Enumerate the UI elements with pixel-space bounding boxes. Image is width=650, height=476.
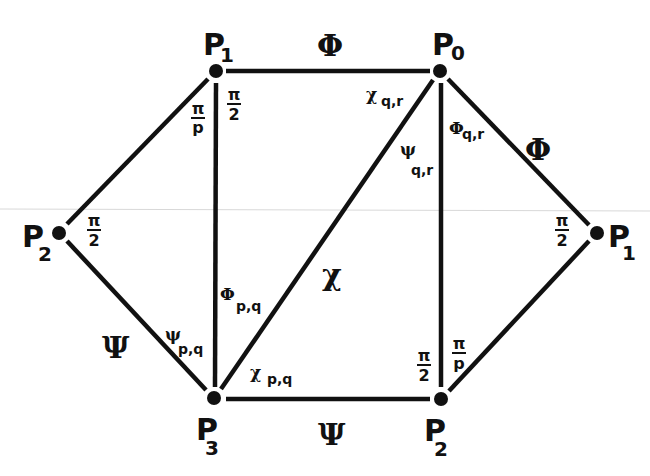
edge-label-left-psi: Ψ xyxy=(102,330,130,365)
edge-label-diagonal-chi: χ xyxy=(322,257,342,292)
edge-p0-p1right xyxy=(448,79,589,225)
vertex-dot xyxy=(52,226,66,240)
svg-text:p: p xyxy=(192,118,203,137)
angle-pi-over-2-at-p1: π 2 xyxy=(227,85,241,124)
svg-text:p: p xyxy=(453,354,464,373)
svg-text:π: π xyxy=(453,334,466,353)
node-subscript: 1 xyxy=(622,241,636,265)
node-p2-left: P 2 xyxy=(22,219,66,266)
edge-label-top-phi: Φ xyxy=(317,28,343,63)
svg-text:Φ: Φ xyxy=(220,284,235,304)
angle-chi-qr-at-p0: χ q,r xyxy=(366,84,403,109)
vertex-dot xyxy=(433,64,447,78)
svg-text:p,q: p,q xyxy=(267,371,292,387)
edge-p2left-p1 xyxy=(67,79,208,224)
node-p2-bottom: P 2 xyxy=(424,392,448,461)
svg-text:χ: χ xyxy=(366,84,377,104)
angle-chi-pq-at-p3: χ p,q xyxy=(250,362,292,387)
svg-text:π: π xyxy=(88,211,101,230)
angle-pi-over-2-at-p2-left: π 2 xyxy=(87,211,101,250)
angle-pi-over-p-at-p2-bottom: π p xyxy=(452,334,466,373)
svg-text:2: 2 xyxy=(228,105,239,124)
node-p1-right: P 1 xyxy=(590,219,636,265)
edges xyxy=(67,71,589,399)
angle-phi-qr-at-p0: Φ q,r xyxy=(449,118,484,142)
node-subscript: 2 xyxy=(434,437,448,461)
svg-text:π: π xyxy=(418,346,431,365)
svg-text:p,q: p,q xyxy=(236,298,261,314)
edge-p2bottom-p1right xyxy=(449,241,589,391)
edge-p2left-p3 xyxy=(67,241,206,390)
node-subscript: 0 xyxy=(451,41,465,65)
svg-text:q,r: q,r xyxy=(462,126,484,142)
node-p0: P 0 xyxy=(432,27,465,78)
angle-psi-qr-at-p0: ψ q,r xyxy=(400,139,433,178)
edge-p3-p0-diagonal xyxy=(221,80,433,389)
svg-text:q,r: q,r xyxy=(411,162,433,178)
polytope-graph-diagram: P 1 P 0 P 2 P 1 P 3 P 2 Φ Φ Ψ χ Ψ π p π … xyxy=(0,0,650,476)
svg-text:p,q: p,q xyxy=(178,341,203,357)
node-p3: P 3 xyxy=(196,391,221,460)
svg-text:π: π xyxy=(556,211,569,230)
angle-phi-pq-at-p3: Φ p,q xyxy=(220,284,261,314)
svg-text:χ: χ xyxy=(250,362,261,382)
svg-text:π: π xyxy=(228,85,241,104)
svg-text:q,r: q,r xyxy=(381,93,403,109)
edge-p1-p3 xyxy=(215,83,216,387)
vertex-dot xyxy=(207,391,221,405)
node-subscript: 1 xyxy=(220,43,234,67)
svg-text:2: 2 xyxy=(418,366,429,385)
vertex-dot xyxy=(434,392,448,406)
svg-text:π: π xyxy=(192,99,205,118)
svg-text:2: 2 xyxy=(88,231,99,250)
node-subscript: 3 xyxy=(205,436,219,460)
vertex-dot xyxy=(590,226,604,240)
angle-pi-over-2-at-p2-bottom: π 2 xyxy=(417,346,431,385)
svg-text:ψ: ψ xyxy=(400,139,416,159)
angle-pi-over-p-at-p1: π p xyxy=(191,99,205,137)
edge-label-upper-right-phi: Φ xyxy=(525,132,551,167)
svg-text:2: 2 xyxy=(556,231,567,250)
edge-label-bottom-psi: Ψ xyxy=(318,417,346,452)
angle-pi-over-2-at-p1-right: π 2 xyxy=(555,211,569,250)
node-subscript: 2 xyxy=(38,242,52,266)
